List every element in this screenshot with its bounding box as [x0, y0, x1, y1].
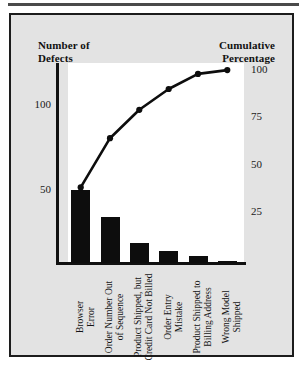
figure-border-box: Number of Defects Cumulative Percentage …	[9, 13, 294, 357]
top-divider-rule	[8, 3, 299, 6]
left-tick-label: 100	[17, 98, 51, 110]
category-label-line: Wrong Model	[221, 267, 232, 367]
category-label-line: Shipped	[232, 267, 243, 367]
cumulative-marker	[166, 86, 172, 92]
category-label: Wrong ModelShipped	[221, 267, 242, 367]
category-label: Order EntryMistake	[163, 267, 184, 367]
category-label-line: Error	[85, 267, 96, 367]
category-label-line: Order Number Out	[104, 267, 115, 367]
category-label: Product Shipped, butCredit Card Not Bill…	[133, 267, 154, 367]
cumulative-line-series	[58, 55, 254, 270]
cumulative-marker	[224, 67, 230, 73]
right-axis-title-line1: Cumulative	[145, 39, 275, 52]
category-label-line: Billing Address	[203, 267, 214, 367]
left-axis-title-line1: Number of	[38, 39, 158, 52]
category-label: Product Shipped toBilling Address	[192, 267, 213, 367]
category-label-line: Credit Card Not Billed	[144, 267, 155, 367]
category-label: Order Number Outof Sequence	[104, 267, 125, 367]
right-tick-label: 50	[251, 158, 285, 170]
right-tick-label: 100	[251, 63, 285, 75]
cumulative-line	[81, 70, 228, 187]
pareto-chart-figure: Number of Defects Cumulative Percentage …	[0, 0, 307, 373]
category-label-line: Product Shipped to	[192, 267, 203, 367]
category-label: BrowserError	[75, 267, 96, 367]
right-tick-label: 25	[251, 205, 285, 217]
category-label-line: Product Shipped, but	[133, 267, 144, 367]
cumulative-marker	[78, 184, 84, 190]
cumulative-marker	[195, 71, 201, 77]
cumulative-marker	[136, 107, 142, 113]
category-label-line: Order Entry	[163, 267, 174, 367]
category-label-line: Browser	[75, 267, 86, 367]
cumulative-marker	[107, 135, 113, 141]
category-label-line: Mistake	[173, 267, 184, 367]
category-labels: BrowserErrorOrder Number Outof SequenceP…	[68, 267, 244, 372]
left-tick-label: 50	[17, 183, 51, 195]
right-tick-label: 75	[251, 110, 285, 122]
category-label-line: of Sequence	[115, 267, 126, 367]
